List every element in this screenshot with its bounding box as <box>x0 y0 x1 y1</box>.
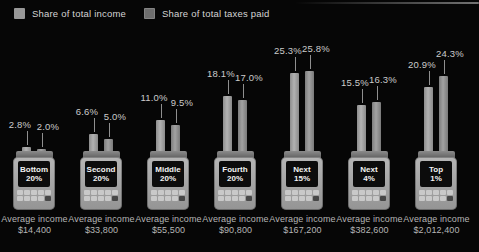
income-group-6: 15.5%16.3%Next4%Average income$382,600 <box>336 0 403 252</box>
screen-label-line2: 1% <box>430 174 442 184</box>
keypad-key <box>246 190 252 195</box>
income-group-5: 25.3%25.8%Next15%Average income$167,200 <box>269 0 336 252</box>
screen-label-line2: 4% <box>363 174 375 184</box>
screen-label-line1: Fourth <box>222 165 247 175</box>
group-caption: Average income$167,200 <box>269 214 336 235</box>
keypad-key <box>98 190 104 195</box>
calculator-body: Middle20% <box>147 157 189 210</box>
screen-label-line2: 20% <box>160 174 176 184</box>
calculator-screen: Top1% <box>420 161 452 187</box>
keypad-key <box>292 196 298 201</box>
keypad-key <box>380 196 386 201</box>
bar-income <box>290 73 299 156</box>
keypad-key <box>84 196 90 201</box>
calculator-body: Next15% <box>281 157 323 210</box>
calculator-keypad <box>17 190 51 201</box>
leader-line-taxes <box>243 84 244 98</box>
calculator-body: Top1% <box>415 157 457 210</box>
keypad-key <box>38 190 44 195</box>
screen-label-line2: 20% <box>227 174 243 184</box>
keypad-key <box>45 190 51 195</box>
keypad-key <box>426 190 432 195</box>
leader-line-income <box>429 71 430 85</box>
keypad-key <box>299 196 305 201</box>
screen-label-line1: Middle <box>155 165 180 175</box>
bar-income <box>223 96 232 156</box>
keypad-key <box>359 190 365 195</box>
group-caption: Average income$2,012,400 <box>403 214 470 235</box>
keypad-key <box>433 190 439 195</box>
leader-line-income <box>27 131 28 145</box>
caption-line1: Average income <box>403 214 470 225</box>
keypad-key <box>179 196 185 201</box>
screen-label-line1: Top <box>429 165 443 175</box>
keypad-key <box>218 196 224 201</box>
caption-line1: Average income <box>269 214 336 225</box>
bar-taxes <box>439 76 448 156</box>
keypad-key <box>366 190 372 195</box>
caption-line2: $55,500 <box>135 225 202 236</box>
bar-income <box>357 105 366 156</box>
caption-line1: Average income <box>1 214 68 225</box>
keypad-key <box>352 196 358 201</box>
caption-line2: $382,600 <box>336 225 403 236</box>
percent-label-income: 20.9% <box>400 59 444 70</box>
keypad-key <box>232 196 238 201</box>
percent-label-taxes: 5.0% <box>93 111 137 122</box>
caption-line2: $2,012,400 <box>403 225 470 236</box>
income-group-7: 20.9%24.3%Top1%Average income$2,012,400 <box>403 0 470 252</box>
keypad-key <box>31 190 37 195</box>
keypad-key <box>419 196 425 201</box>
keypad-key <box>225 196 231 201</box>
bar-taxes <box>238 100 247 156</box>
calculator-keypad <box>218 190 252 201</box>
keypad-key <box>366 196 372 201</box>
screen-label-line2: 15% <box>294 174 310 184</box>
caption-line1: Average income <box>135 214 202 225</box>
keypad-key <box>426 196 432 201</box>
keypad-key <box>151 196 157 201</box>
screen-label-line2: 20% <box>26 174 42 184</box>
group-caption: Average income$33,800 <box>68 214 135 235</box>
keypad-key <box>38 196 44 201</box>
chart-columns: 2.8%2.0%Bottom20%Average income$14,4006.… <box>1 0 470 252</box>
keypad-key <box>306 196 312 201</box>
keypad-key <box>91 190 97 195</box>
caption-line2: $14,400 <box>1 225 68 236</box>
keypad-key <box>165 190 171 195</box>
percent-label-taxes: 24.3% <box>428 48 472 59</box>
keypad-key <box>359 196 365 201</box>
percent-label-taxes: 16.3% <box>361 74 405 85</box>
group-caption: Average income$14,400 <box>1 214 68 235</box>
calculator-body: Fourth20% <box>214 157 256 210</box>
keypad-key <box>179 190 185 195</box>
keypad-key <box>218 190 224 195</box>
keypad-key <box>172 190 178 195</box>
calculator-keypad <box>84 190 118 201</box>
percent-label-taxes: 9.5% <box>160 97 204 108</box>
keypad-key <box>313 196 319 201</box>
leader-line-income <box>362 89 363 103</box>
caption-line1: Average income <box>68 214 135 225</box>
keypad-key <box>105 196 111 201</box>
keypad-key <box>98 196 104 201</box>
keypad-key <box>373 190 379 195</box>
keypad-key <box>225 190 231 195</box>
percent-label-taxes: 2.0% <box>26 121 70 132</box>
calculator-screen: Next15% <box>286 161 318 187</box>
keypad-key <box>112 190 118 195</box>
screen-label-line2: 20% <box>93 174 109 184</box>
calculator-keypad <box>352 190 386 201</box>
keypad-key <box>447 196 453 201</box>
group-caption: Average income$90,800 <box>202 214 269 235</box>
keypad-key <box>232 190 238 195</box>
screen-label-line1: Next <box>293 165 310 175</box>
keypad-key <box>352 190 358 195</box>
keypad-key <box>112 196 118 201</box>
calculator-screen: Middle20% <box>152 161 184 187</box>
keypad-key <box>246 196 252 201</box>
group-caption: Average income$55,500 <box>135 214 202 235</box>
caption-line2: $33,800 <box>68 225 135 236</box>
keypad-key <box>313 190 319 195</box>
leader-line-taxes <box>310 55 311 69</box>
